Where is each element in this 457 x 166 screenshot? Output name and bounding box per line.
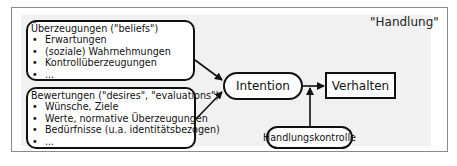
arrow-layer bbox=[0, 0, 457, 166]
arrow-desires-to-intention bbox=[196, 92, 222, 119]
arrow-beliefs-to-intention bbox=[195, 60, 222, 80]
